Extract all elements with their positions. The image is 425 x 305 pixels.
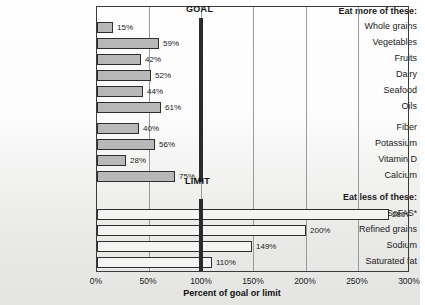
bar-value-oils: 61% xyxy=(165,103,181,112)
xtick-250: 250% xyxy=(337,276,377,286)
bar-vegetables xyxy=(97,38,159,49)
xtick-0: 0% xyxy=(76,276,116,286)
goal-marker-line xyxy=(199,18,203,182)
bar-vitamin-d xyxy=(97,155,126,166)
bar-value-vegetables: 59% xyxy=(163,39,179,48)
bar-fiber xyxy=(97,123,139,134)
bar-value-dairy: 52% xyxy=(155,71,171,80)
bar-value-saturated-fat: 110% xyxy=(216,258,236,267)
bar-dairy xyxy=(97,70,151,81)
xtick-50: 50% xyxy=(128,276,168,286)
bar-value-sodium: 149% xyxy=(256,242,276,251)
bar-calories-from-sofas xyxy=(97,209,389,220)
limit-label: LIMIT xyxy=(185,176,210,186)
bar-value-whole-grains: 15% xyxy=(117,23,133,32)
bar-value-potassium: 56% xyxy=(159,140,175,149)
limit-marker-line xyxy=(199,199,203,272)
bar-value-calories-from-sofas: 280% xyxy=(392,210,409,219)
xtick-150: 150% xyxy=(233,276,273,286)
gridline-200 xyxy=(306,7,307,271)
plot-area: 15% 59% 42% 52% 44% 61% 40% 56% 28% 75% … xyxy=(96,6,409,272)
bar-fruits xyxy=(97,54,141,65)
x-axis-title: Percent of goal or limit xyxy=(0,288,420,298)
bar-calcium xyxy=(97,171,175,182)
bar-saturated-fat xyxy=(97,257,212,268)
bar-oils xyxy=(97,102,161,113)
bar-seafood xyxy=(97,86,143,97)
bar-value-seafood: 44% xyxy=(147,87,163,96)
x-axis-title-text: Percent of goal or limit xyxy=(183,288,281,298)
xtick-200: 200% xyxy=(285,276,325,286)
bar-value-vitamin-d: 28% xyxy=(130,156,146,165)
goal-label: GOAL xyxy=(186,4,213,14)
bar-value-fruits: 42% xyxy=(145,55,161,64)
xtick-300: 300% xyxy=(389,276,425,286)
bar-potassium xyxy=(97,139,155,150)
bar-value-refined-grains: 200% xyxy=(310,226,330,235)
gridline-250 xyxy=(358,7,359,271)
bar-sodium xyxy=(97,241,252,252)
xtick-100: 100% xyxy=(181,276,221,286)
bar-whole-grains xyxy=(97,22,113,33)
bar-value-fiber: 40% xyxy=(143,124,159,133)
